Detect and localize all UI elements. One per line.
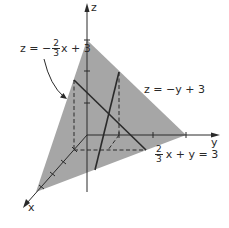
plane-x-rhs: x + 3 [61,43,91,54]
plane-x-fraction: 2 3 [52,39,60,58]
3d-plane-diagram [0,0,229,228]
x-axis-label: x [28,202,35,213]
plane-y-equation: z = −y + 3 [144,84,205,95]
trace-xy-equation: 2 3 x + y = 3 [154,145,218,164]
plane-x-equation: z = − 2 3 x + 3 [20,39,91,58]
z-axis-label: z [91,2,97,13]
fraction-denominator: 3 [156,155,162,164]
z-axis-arrow-icon [85,3,90,12]
fraction-denominator: 3 [53,49,59,58]
annotation-arrow [44,59,64,97]
plane-x-lhs: z = − [20,43,51,54]
trace-xy-rhs: x + y = 3 [166,149,218,160]
trace-xy-fraction: 2 3 [155,145,163,164]
